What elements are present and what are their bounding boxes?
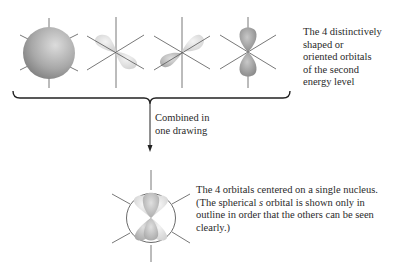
p-orbital-3 bbox=[220, 17, 276, 88]
arrow-caption: Combined in one drawing bbox=[155, 112, 245, 137]
bottom-caption-line: The 4 orbitals centered on a single nucl… bbox=[196, 184, 393, 197]
top-caption-line: shaped or bbox=[303, 39, 393, 52]
top-caption-line: The 4 distinctively bbox=[303, 26, 393, 39]
arrow-caption-line: Combined in bbox=[155, 112, 245, 125]
arrow-caption-line: one drawing bbox=[155, 125, 245, 138]
curly-brace bbox=[13, 91, 290, 104]
down-arrow bbox=[148, 104, 153, 152]
s-orbital bbox=[20, 18, 78, 88]
bottom-caption-line: (The spherical s orbital is shown only i… bbox=[196, 197, 393, 210]
bottom-caption: The 4 orbitals centered on a single nucl… bbox=[196, 184, 393, 234]
bottom-caption-line: clearly.) bbox=[196, 222, 393, 235]
p-orbital-2 bbox=[154, 17, 210, 88]
top-caption: The 4 distinctively shaped or oriented o… bbox=[303, 26, 393, 89]
top-caption-line: energy level bbox=[303, 76, 393, 89]
top-caption-line: of the second bbox=[303, 64, 393, 77]
bottom-caption-line: outline in order that the others can be … bbox=[196, 209, 393, 222]
top-caption-line: oriented orbitals bbox=[303, 51, 393, 64]
p-orbital-1 bbox=[87, 17, 144, 88]
combined-orbitals bbox=[112, 170, 190, 262]
